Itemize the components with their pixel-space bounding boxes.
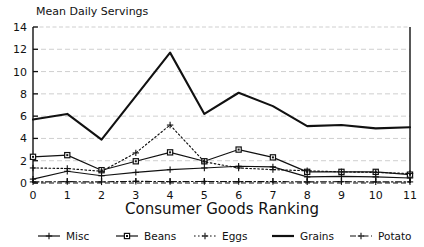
legend-label: Beans bbox=[144, 230, 176, 242]
y-tick-label: 0 bbox=[20, 177, 27, 190]
y-tick-label: 12 bbox=[13, 43, 27, 56]
x-tick-label: 2 bbox=[98, 189, 105, 202]
x-axis-title: Consumer Goods Ranking bbox=[125, 200, 319, 218]
legend-label: Grains bbox=[300, 230, 334, 242]
y-tick-label: 10 bbox=[13, 66, 27, 79]
y-tick-label: 2 bbox=[20, 155, 27, 168]
legend-label: Potato bbox=[378, 230, 411, 242]
chart-title: Mean Daily Servings bbox=[36, 5, 149, 18]
legend-label: Misc bbox=[66, 230, 89, 242]
chart-container: Mean Daily Servings 02468101214 01234567… bbox=[0, 0, 424, 247]
x-tick-label: 1 bbox=[64, 189, 71, 202]
x-tick-label: 10 bbox=[369, 189, 383, 202]
x-tick-label: 11 bbox=[403, 189, 417, 202]
y-tick-label: 4 bbox=[20, 132, 27, 145]
y-tick-label: 14 bbox=[13, 21, 27, 34]
y-tick-label: 6 bbox=[20, 110, 27, 123]
legend-label: Eggs bbox=[222, 230, 247, 242]
y-tick-label: 8 bbox=[20, 88, 27, 101]
mean-daily-servings-line-chart: Mean Daily Servings 02468101214 01234567… bbox=[0, 0, 424, 247]
x-tick-label: 9 bbox=[338, 189, 345, 202]
x-tick-label: 0 bbox=[30, 189, 37, 202]
